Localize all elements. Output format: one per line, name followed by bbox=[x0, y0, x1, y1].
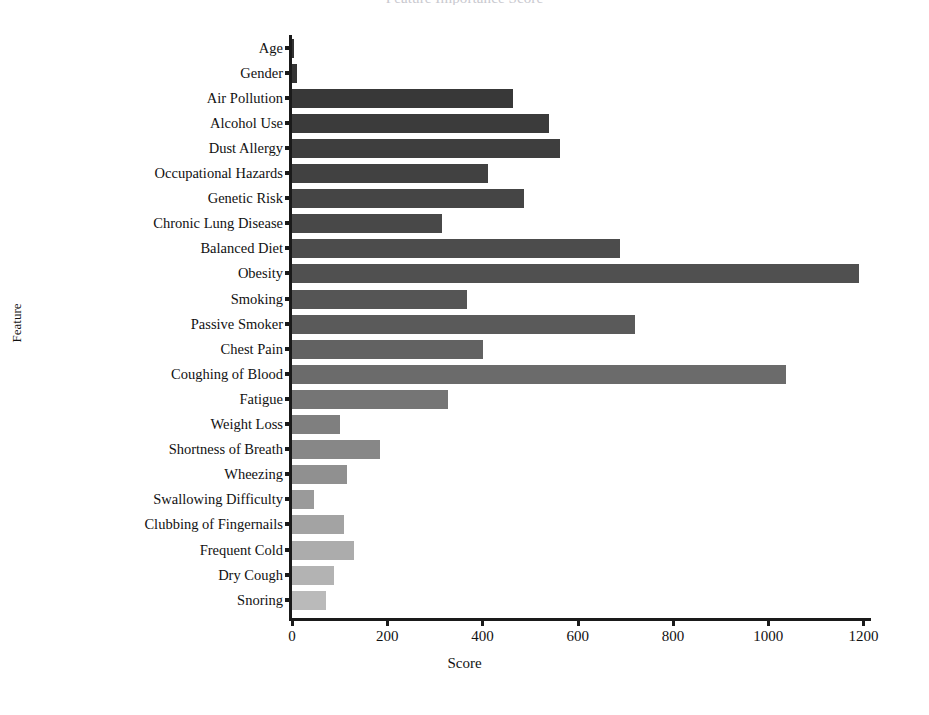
x-axis-tick bbox=[767, 618, 770, 626]
bar bbox=[292, 264, 859, 283]
x-axis-tick bbox=[672, 618, 675, 626]
x-axis-tick-label: 1200 bbox=[848, 628, 878, 645]
chart-title-cropped: Feature Importance Score bbox=[0, 0, 929, 5]
x-axis-tick-label: 600 bbox=[566, 628, 589, 645]
bar bbox=[292, 365, 786, 384]
bar bbox=[292, 465, 347, 484]
bar bbox=[292, 315, 635, 334]
y-axis-tick-label: Age bbox=[259, 39, 283, 58]
x-axis-tick bbox=[291, 618, 294, 626]
y-axis-tick bbox=[285, 121, 292, 125]
bar bbox=[292, 39, 294, 58]
y-axis-tick bbox=[285, 472, 292, 476]
x-axis-tick bbox=[862, 618, 865, 626]
y-axis-tick-label: Shortness of Breath bbox=[169, 440, 283, 459]
bar bbox=[292, 139, 560, 158]
y-axis-tick bbox=[285, 171, 292, 175]
plot-area: AgeGenderAir PollutionAlcohol UseDust Al… bbox=[292, 35, 892, 618]
x-axis-tick-label: 200 bbox=[376, 628, 399, 645]
y-axis-tick bbox=[285, 347, 292, 351]
y-axis-tick bbox=[285, 246, 292, 250]
bar bbox=[292, 440, 380, 459]
y-axis-tick-label: Dust Allergy bbox=[209, 139, 283, 158]
y-axis-tick bbox=[285, 598, 292, 602]
y-axis-tick-label: Clubbing of Fingernails bbox=[144, 515, 283, 534]
y-axis-tick bbox=[285, 297, 292, 301]
x-axis-tick bbox=[577, 618, 580, 626]
bar bbox=[292, 239, 620, 258]
y-axis-tick-label: Weight Loss bbox=[210, 415, 283, 434]
y-axis-tick bbox=[285, 271, 292, 275]
x-axis-tick bbox=[386, 618, 389, 626]
y-axis-tick-label: Chronic Lung Disease bbox=[153, 214, 283, 233]
bar bbox=[292, 490, 314, 509]
x-axis-tick-label: 1000 bbox=[753, 628, 783, 645]
x-axis-line bbox=[289, 618, 871, 621]
y-axis-tick bbox=[285, 573, 292, 577]
bar bbox=[292, 566, 334, 585]
bar bbox=[292, 89, 513, 108]
y-axis-tick bbox=[285, 322, 292, 326]
y-axis-tick bbox=[285, 146, 292, 150]
y-axis-tick bbox=[285, 447, 292, 451]
bar bbox=[292, 415, 340, 434]
y-axis-tick-label: Passive Smoker bbox=[191, 315, 283, 334]
y-axis-tick-label: Dry Cough bbox=[218, 566, 283, 585]
bar bbox=[292, 390, 448, 409]
y-axis-tick-label: Alcohol Use bbox=[210, 114, 283, 133]
bar bbox=[292, 515, 344, 534]
y-axis-tick-label: Balanced Diet bbox=[200, 239, 283, 258]
y-axis-tick bbox=[285, 196, 292, 200]
y-axis-tick-label: Snoring bbox=[237, 591, 283, 610]
bar bbox=[292, 64, 297, 83]
y-axis-tick-label: Smoking bbox=[231, 290, 283, 309]
bar bbox=[292, 591, 326, 610]
y-axis-tick-label: Fatigue bbox=[240, 390, 284, 409]
y-axis-tick-label: Genetic Risk bbox=[208, 189, 283, 208]
y-axis-tick-label: Frequent Cold bbox=[200, 541, 283, 560]
y-axis-tick bbox=[285, 397, 292, 401]
y-axis-tick-label: Obesity bbox=[238, 264, 283, 283]
bar bbox=[292, 164, 488, 183]
bar bbox=[292, 340, 483, 359]
y-axis-tick bbox=[285, 497, 292, 501]
bar bbox=[292, 114, 549, 133]
y-axis-tick-label: Chest Pain bbox=[221, 340, 283, 359]
y-axis-tick bbox=[285, 548, 292, 552]
y-axis-tick-label: Air Pollution bbox=[207, 89, 283, 108]
x-axis-tick-label: 0 bbox=[288, 628, 296, 645]
y-axis-tick bbox=[285, 96, 292, 100]
y-axis-tick bbox=[285, 221, 292, 225]
x-axis-title: Score bbox=[0, 655, 929, 672]
y-axis-tick-label: Swallowing Difficulty bbox=[153, 490, 283, 509]
y-axis-tick-label: Wheezing bbox=[224, 465, 283, 484]
y-axis-tick bbox=[285, 46, 292, 50]
y-axis-tick-label: Occupational Hazards bbox=[155, 164, 283, 183]
bar bbox=[292, 189, 524, 208]
x-axis-tick bbox=[481, 618, 484, 626]
bar bbox=[292, 290, 467, 309]
y-axis-tick bbox=[285, 522, 292, 526]
y-axis-tick-label: Gender bbox=[240, 64, 283, 83]
ghost-text-artifact bbox=[0, 690, 929, 704]
x-axis-tick-label: 800 bbox=[662, 628, 685, 645]
y-axis-title: Feature bbox=[9, 288, 25, 358]
y-axis-tick bbox=[285, 372, 292, 376]
y-axis-tick bbox=[285, 71, 292, 75]
bar-chart: Feature Importance Score Feature AgeGend… bbox=[0, 0, 929, 715]
y-axis-tick-label: Coughing of Blood bbox=[171, 365, 283, 384]
bar bbox=[292, 541, 354, 560]
bar bbox=[292, 214, 442, 233]
x-axis-tick-label: 400 bbox=[471, 628, 494, 645]
y-axis-tick bbox=[285, 422, 292, 426]
